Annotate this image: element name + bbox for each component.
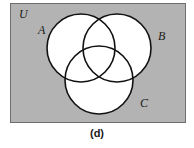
venn-diagram-figure: U A B C (d) <box>0 0 194 148</box>
universal-set-label: U <box>19 8 28 20</box>
set-label-b: B <box>158 30 165 42</box>
set-label-a: A <box>38 24 45 36</box>
figure-caption: (d) <box>0 128 194 139</box>
set-label-c: C <box>140 97 148 109</box>
universal-set-rectangle <box>10 3 186 123</box>
